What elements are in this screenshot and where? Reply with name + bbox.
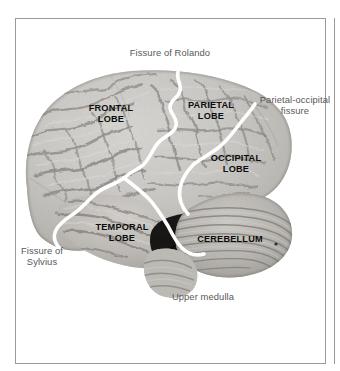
brain-illustration: Fissure of Rolando Parietal-occipital fi… (0, 0, 340, 371)
label-fissure-of-sylvius: Fissure of Sylvius (9, 245, 75, 267)
label-temporal-lobe: TEMPORAL LOBE (91, 222, 153, 244)
label-frontal-lobe: FRONTAL LOBE (82, 103, 140, 125)
label-parietal-lobe: PARIETAL LOBE (182, 100, 240, 122)
page-background: Fissure of Rolando Parietal-occipital fi… (0, 0, 340, 371)
label-cerebellum: CEREBELLUM (192, 234, 268, 245)
label-occipital-lobe: OCCIPITAL LOBE (205, 153, 267, 175)
label-parietal-occipital-fissure: Parietal-occipital fissure (252, 94, 338, 116)
label-upper-medulla: Upper medulla (148, 291, 258, 302)
label-fissure-of-rolando: Fissure of Rolando (104, 47, 236, 58)
